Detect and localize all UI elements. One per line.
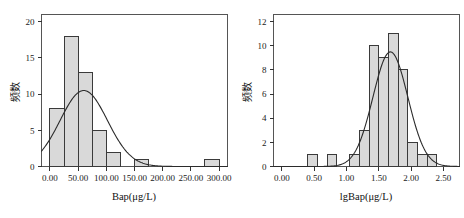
y-tick-label: 10 — [258, 41, 268, 51]
y-tick-label: 15 — [26, 53, 36, 63]
x-tick-label: 2.00 — [403, 173, 419, 183]
histogram-bar — [418, 154, 428, 166]
y-tick-label: 5 — [30, 126, 35, 136]
histogram-bar — [379, 58, 389, 167]
x-tick-label: 200.00 — [150, 173, 175, 183]
lgbap-y-axis-title: 频数 — [241, 82, 253, 102]
histogram-bar — [398, 70, 408, 167]
y-tick-label: 20 — [26, 17, 36, 27]
y-tick-label: 0 — [262, 162, 267, 172]
x-tick-label: 100.00 — [94, 173, 119, 183]
bap-x-tick-labels: 0.0050.00100.00150.00200.00250.00300.00 — [42, 173, 232, 183]
histogram-bar — [106, 152, 120, 166]
x-tick-label: 50.00 — [68, 173, 89, 183]
x-tick-label: 0.00 — [42, 173, 58, 183]
histogram-bar — [408, 142, 418, 166]
histogram-bar — [327, 154, 337, 166]
x-tick-label: 1.50 — [371, 173, 387, 183]
y-tick-label: 2 — [262, 138, 267, 148]
histogram-bar — [92, 130, 106, 166]
lgbap-histogram-svg: 0.000.501.001.502.002.50 024681012 lgBap… — [232, 0, 464, 218]
bap-histogram-svg: 0.0050.00100.00150.00200.00250.00300.00 … — [0, 0, 232, 218]
chart-panel-lgbap: 0.000.501.001.502.002.50 024681012 lgBap… — [232, 0, 464, 218]
lgbap-x-axis-title: lgBap(μg/L) — [340, 191, 393, 203]
bap-y-tick-labels: 05101520 — [26, 17, 36, 172]
bap-x-axis-title: Bap(μg/L) — [112, 191, 157, 203]
y-tick-label: 0 — [30, 162, 35, 172]
histogram-bar — [359, 130, 369, 166]
y-tick-label: 4 — [262, 113, 267, 123]
histogram-bar — [350, 154, 360, 166]
y-tick-label: 12 — [258, 17, 267, 27]
x-tick-label: 300.00 — [207, 173, 232, 183]
bap-y-axis-title: 频数 — [9, 82, 21, 102]
x-tick-label: 1.00 — [339, 173, 355, 183]
lgbap-x-tick-labels: 0.000.501.001.502.002.50 — [274, 173, 452, 183]
x-tick-label: 150.00 — [122, 173, 147, 183]
y-tick-label: 10 — [26, 89, 36, 99]
histogram-bar — [205, 159, 219, 166]
histogram-bar — [308, 154, 318, 166]
x-tick-label: 250.00 — [178, 173, 203, 183]
y-tick-label: 6 — [262, 89, 267, 99]
x-tick-label: 0.50 — [306, 173, 322, 183]
bap-bars-group — [50, 36, 219, 166]
lgbap-y-tick-labels: 024681012 — [258, 17, 268, 172]
y-tick-label: 8 — [262, 65, 267, 75]
chart-panel-bap: 0.0050.00100.00150.00200.00250.00300.00 … — [0, 0, 232, 218]
histogram-bar — [78, 72, 92, 166]
x-tick-label: 2.50 — [435, 173, 451, 183]
histogram-figure: 0.0050.00100.00150.00200.00250.00300.00 … — [0, 0, 464, 218]
x-tick-label: 0.00 — [274, 173, 290, 183]
